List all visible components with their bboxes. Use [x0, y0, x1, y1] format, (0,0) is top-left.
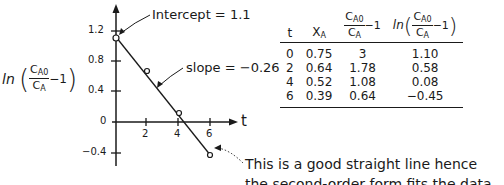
note-line-1: This is a good straight line hence [245, 156, 477, 172]
col-header-t: t [280, 4, 300, 43]
cell-t: 2 [280, 61, 300, 75]
x-tick-label: 2 [142, 128, 148, 139]
ratio-den: C [348, 26, 356, 39]
y-tick-label: 0 [100, 115, 106, 126]
fraction: CA0CA [29, 64, 49, 93]
ratio-num: C [345, 10, 353, 23]
cell-xa: 0.75 [300, 43, 339, 62]
x-tick-label: 4 [174, 128, 180, 139]
right-paren: ) [449, 13, 458, 38]
cell-t: 4 [280, 75, 300, 89]
table-row: 0 0.75 3 1.10 [280, 43, 463, 62]
ln-num-sub: A0 [421, 15, 432, 24]
cell-ln: 0.08 [387, 75, 464, 89]
col-header-ratio: CA0CA−1 [338, 4, 386, 43]
y-axis-label: ln (CA0CA−1) [2, 64, 77, 93]
minus-one: −1 [49, 72, 67, 86]
x-axis-label: t [241, 112, 247, 130]
ln-fraction: CA0CA [412, 11, 432, 40]
cell-ln: −0.45 [387, 89, 464, 108]
cell-ln: 0.58 [387, 61, 464, 75]
col-header-xa: XA [300, 4, 339, 43]
ratio-num-sub: A0 [353, 15, 364, 24]
cell-ratio: 3 [338, 43, 386, 62]
y-tick-label: 1.2 [88, 24, 104, 35]
note-line-2: the second-order form fits the data [245, 176, 492, 185]
col-header-ln: ln(CA0CA−1) [387, 4, 464, 43]
left-paren: ( [19, 64, 29, 94]
y-tick-label: 0.4 [88, 84, 104, 95]
y-tick-label: 0.8 [88, 54, 104, 65]
table-row: 4 0.52 1.08 0.08 [280, 75, 463, 89]
ln-den-sub: A [424, 31, 429, 40]
ln-den: C [416, 26, 424, 39]
den-sub: A [40, 84, 45, 93]
num-c: C [30, 63, 38, 76]
ln-text: ln [2, 71, 15, 87]
cell-xa: 0.64 [300, 61, 339, 75]
left-paren: ( [404, 13, 413, 38]
table-header-row: t XA CA0CA−1 ln(CA0CA−1) [280, 4, 463, 43]
intercept-annotation: Intercept = 1.1 [152, 7, 251, 22]
cell-ratio: 1.78 [338, 61, 386, 75]
ratio-den-sub: A [356, 31, 361, 40]
y-tick-label: −0.4 [82, 146, 106, 157]
num-sub: A0 [38, 68, 49, 77]
slope-annotation: slope = −0.26 [186, 60, 280, 75]
ln-suffix: −1 [433, 19, 449, 32]
cell-xa: 0.39 [300, 89, 339, 108]
cell-t: 0 [280, 43, 300, 62]
ln-num: C [413, 10, 421, 23]
cell-xa: 0.52 [300, 75, 339, 89]
ln-prefix: ln [393, 18, 404, 32]
header-t-text: t [287, 26, 292, 40]
cell-ratio: 0.64 [338, 89, 386, 108]
data-table: t XA CA0CA−1 ln(CA0CA−1) 0 0.75 3 1.10 2… [280, 4, 463, 108]
table-row: 2 0.64 1.78 0.58 [280, 61, 463, 75]
x-tick-label: 6 [206, 128, 212, 139]
ratio-suffix: −1 [365, 19, 381, 32]
cell-ratio: 1.08 [338, 75, 386, 89]
ratio-fraction: CA0CA [344, 11, 364, 40]
cell-t: 6 [280, 89, 300, 108]
table-row: 6 0.39 0.64 −0.45 [280, 89, 463, 108]
right-paren: ) [67, 64, 77, 94]
header-xa-sub: A [320, 31, 325, 40]
cell-ln: 1.10 [387, 43, 464, 62]
